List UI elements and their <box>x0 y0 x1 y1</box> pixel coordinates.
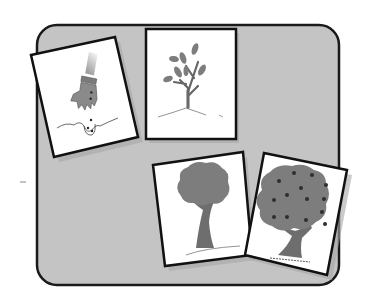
scene-canvas <box>0 0 371 303</box>
seed <box>90 119 92 121</box>
seed <box>91 130 93 132</box>
seed <box>87 127 89 129</box>
sequencing-board-scene: Apple tree life cycle sequence cards <box>0 0 371 303</box>
card-sapling[interactable] <box>146 29 239 143</box>
card-grown-tree[interactable] <box>153 152 256 271</box>
